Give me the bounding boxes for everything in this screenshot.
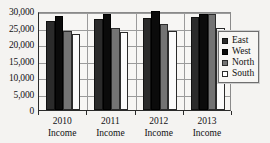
legend-item-south[interactable]: South [222, 68, 254, 79]
bar-north [111, 28, 119, 111]
y-axis: 05,00010,00015,00020,00025,00030,000 [0, 0, 38, 143]
legend-item-east[interactable]: East [222, 35, 254, 46]
bar-chart: 05,00010,00015,00020,00025,00030,000 201… [0, 0, 270, 143]
bar-south [120, 32, 128, 110]
x-axis-tick-label-line: 2011 [86, 116, 134, 128]
legend-item-label: West [232, 46, 251, 57]
bar-east [46, 21, 54, 110]
bar-east [191, 17, 199, 110]
bar-north [208, 14, 216, 110]
x-axis: 2010Income2011Income2012Income2013Income [38, 116, 231, 143]
x-axis-tick-label-line: Income [135, 128, 183, 140]
x-axis-tickmark [86, 111, 87, 115]
x-axis-tick-label: 2013Income [183, 116, 231, 139]
x-axis-tickmark [38, 111, 39, 115]
legend-item-label: East [232, 35, 248, 46]
chart-legend: EastWestNorthSouth [218, 31, 259, 83]
legend-swatch-icon [222, 49, 228, 55]
x-axis-tick-label-line: Income [38, 128, 86, 140]
x-axis-tick-label-line: 2012 [135, 116, 183, 128]
x-axis-tick-label: 2010Income [38, 116, 86, 139]
legend-item-label: North [232, 57, 254, 68]
bar-east [143, 18, 151, 110]
x-axis-tick-label-line: Income [183, 128, 231, 140]
x-axis-tick-label: 2012Income [135, 116, 183, 139]
x-axis-tick-label-line: Income [86, 128, 134, 140]
bar-west [55, 16, 63, 110]
bars-layer [39, 13, 230, 110]
plot-area [38, 12, 231, 111]
legend-swatch-icon [222, 60, 228, 66]
x-axis-tickmark [183, 111, 184, 115]
y-axis-tick-label: 0 [29, 106, 34, 116]
bar-group [39, 13, 87, 110]
bar-south [72, 34, 80, 110]
x-axis-tickmark [135, 111, 136, 115]
bar-north [160, 24, 168, 110]
x-axis-tick-label-line: 2010 [38, 116, 86, 128]
x-axis-tickmark [231, 111, 232, 115]
y-axis-tick-label: 30,000 [9, 7, 34, 17]
legend-item-west[interactable]: West [222, 46, 254, 57]
y-axis-tick-label: 10,000 [9, 73, 34, 83]
legend-item-north[interactable]: North [222, 57, 254, 68]
x-axis-tick-label: 2011Income [86, 116, 134, 139]
bar-west [151, 11, 159, 110]
y-axis-tick-label: 25,000 [9, 24, 34, 34]
bar-group [136, 13, 184, 110]
y-axis-tick-label: 20,000 [9, 40, 34, 50]
bar-south [168, 31, 176, 110]
legend-swatch-icon [222, 71, 228, 77]
bar-group [87, 13, 135, 110]
bar-west [199, 14, 207, 110]
legend-item-label: South [232, 68, 254, 79]
bar-north [63, 31, 71, 110]
x-axis-tick-label-line: 2013 [183, 116, 231, 128]
bar-east [94, 19, 102, 110]
y-axis-tick-label: 15,000 [9, 57, 34, 67]
y-axis-tick-label: 5,000 [14, 90, 34, 100]
bar-west [103, 14, 111, 110]
legend-swatch-icon [222, 38, 228, 44]
